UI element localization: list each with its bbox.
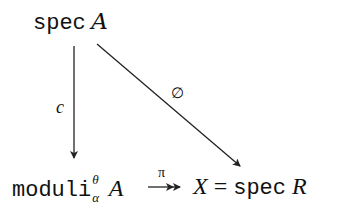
label-pi: π	[158, 166, 165, 180]
spec-label-R: spec	[233, 176, 286, 201]
object-A: A	[91, 8, 108, 34]
moduli-indices: θα	[91, 181, 103, 201]
node-X-spec-R: X = spec R	[193, 174, 307, 200]
subscript-alpha: α	[92, 191, 99, 204]
arrow-emptyset	[97, 44, 240, 166]
moduli-label: moduli	[12, 178, 91, 203]
label-c: c	[56, 98, 64, 116]
object-X: X	[193, 173, 208, 199]
spec-label: spec	[33, 11, 86, 36]
label-emptyset: ∅	[171, 86, 184, 101]
equals-sign: =	[214, 173, 228, 199]
node-spec-A: spec A	[33, 10, 108, 35]
object-R: R	[292, 173, 307, 199]
arrow-pi	[148, 183, 181, 191]
superscript-theta: θ	[92, 173, 98, 186]
object-A-moduli: A	[109, 175, 124, 201]
node-moduli: moduliθα A	[12, 176, 123, 202]
